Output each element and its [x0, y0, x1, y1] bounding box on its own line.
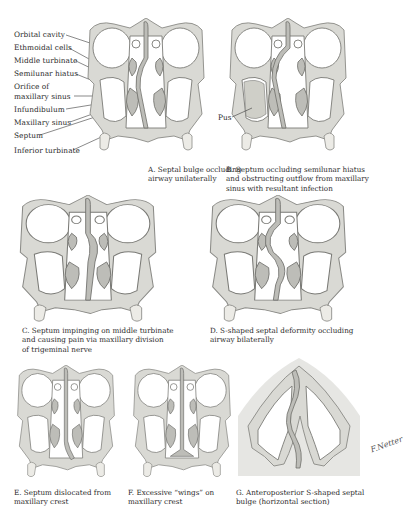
- panel-e-illustration: [16, 365, 116, 480]
- caption-d: D. S-shaped septal deformity occluding a…: [210, 326, 353, 345]
- panel-f-illustration: [132, 365, 232, 480]
- panel-c-illustration: [18, 195, 158, 325]
- caption-f: F. Excessive “wings” on maxillary crest: [128, 488, 214, 507]
- caption-b: B. Septum occluding semilunar hiatus and…: [226, 165, 369, 193]
- caption-e: E. Septum dislocated from maxillary cres…: [14, 488, 111, 507]
- panel-g-illustration: [234, 356, 364, 481]
- panel-d-illustration: [208, 195, 348, 325]
- caption-g: G. Anteroposterior S-shaped septal bulge…: [236, 488, 364, 507]
- caption-c: C. Septum impinging on middle turbinate …: [22, 326, 174, 354]
